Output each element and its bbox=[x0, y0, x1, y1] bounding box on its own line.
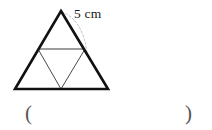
outer-triangle bbox=[15, 11, 108, 89]
dimension-label: 5 cm bbox=[74, 7, 101, 21]
answer-close-paren: ) bbox=[185, 100, 192, 126]
worksheet-figure-page: 5 cm ( ) bbox=[0, 0, 212, 130]
answer-open-paren: ( bbox=[25, 100, 32, 126]
inner-inverted-triangle bbox=[38, 49, 85, 89]
answer-blank: ( ) bbox=[0, 100, 212, 128]
